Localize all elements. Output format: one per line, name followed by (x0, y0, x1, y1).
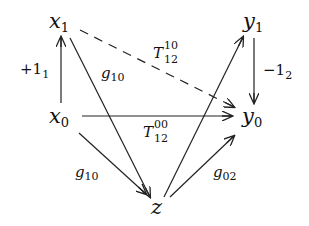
node-z: z (150, 195, 163, 219)
label-g02: g02 (213, 163, 237, 183)
node-y0: y0 (241, 104, 262, 130)
node-x1: x1 (49, 9, 69, 35)
node-y1: y1 (242, 9, 263, 35)
label-g10-upper: g10 (101, 64, 125, 84)
label-plus-1-1: +11 (20, 60, 49, 81)
node-x0: x0 (49, 104, 69, 130)
label-T12-10: T1012 (153, 39, 178, 66)
commutative-diagram: x1 y1 x0 y0 z +11 −12 T1012 T0012 g10 g1… (0, 0, 309, 226)
label-g10-lower: g10 (75, 163, 99, 183)
edge-x0-z (79, 133, 146, 194)
label-minus-1-2: −12 (263, 61, 292, 82)
label-T12-00: T0012 (143, 118, 168, 145)
